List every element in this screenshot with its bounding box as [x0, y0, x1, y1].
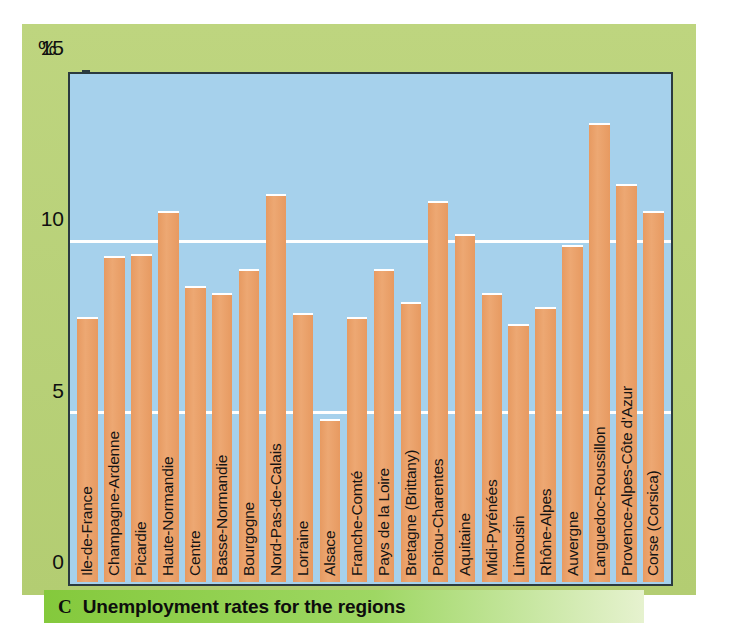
bar[interactable]: Limousin: [508, 324, 528, 582]
bar-category-label: Alsace: [321, 531, 339, 576]
bar[interactable]: Franche-Comté: [347, 317, 367, 582]
bar-category-label: Basse-Normandie: [213, 455, 231, 576]
bar-category-label: Auvergne: [564, 511, 582, 576]
bar[interactable]: Centre: [185, 286, 205, 582]
y-tick-label-5: 5: [20, 378, 64, 402]
bar-slot: Bretagne (Brittany): [397, 76, 424, 582]
bar[interactable]: Rhône-Alpes: [535, 307, 555, 582]
plot-area: Ile-de-FranceChampagne-ArdennePicardieHa…: [68, 72, 673, 586]
y-tick-label-0: 0: [20, 550, 64, 574]
bar-category-label: Franche-Comté: [348, 471, 366, 576]
bar[interactable]: Poitou-Charentes: [428, 201, 448, 582]
bar-slot: Aquitaine: [451, 76, 478, 582]
bar[interactable]: Lorraine: [293, 313, 313, 582]
bar[interactable]: Aquitaine: [455, 234, 475, 583]
bar-category-label: Midi-Pyrénées: [483, 480, 501, 576]
bar-slot: Ile-de-France: [74, 76, 101, 582]
bar-category-label: Rhône-Alpes: [537, 489, 555, 576]
figure-caption: C Unemployment rates for the regions: [44, 590, 644, 623]
bar-slot: Picardie: [128, 76, 155, 582]
figure-container: % 051015 Ile-de-FranceChampagne-ArdenneP…: [0, 0, 730, 625]
bar-category-label: Bourgogne: [240, 502, 258, 576]
bar-slot: Nord-Pas-de-Calais: [263, 76, 290, 582]
bar-category-label: Provence-Alpes-Côte d'Azur: [618, 386, 636, 576]
bar[interactable]: Picardie: [131, 254, 151, 582]
bar-slot: Alsace: [317, 76, 344, 582]
bar-slot: Haute-Normandie: [155, 76, 182, 582]
bar-slot: Franche-Comté: [344, 76, 371, 582]
bar-category-label: Centre: [186, 531, 204, 576]
bar-slot: Provence-Alpes-Côte d'Azur: [613, 76, 640, 582]
caption-text: Unemployment rates for the regions: [83, 596, 406, 618]
bar-slot: Basse-Normandie: [209, 76, 236, 582]
bar[interactable]: Bretagne (Brittany): [401, 302, 421, 583]
bar-category-label: Poitou-Charentes: [429, 459, 447, 576]
bar[interactable]: Haute-Normandie: [158, 211, 178, 582]
bar-slot: Auvergne: [559, 76, 586, 582]
bar[interactable]: Provence-Alpes-Côte d'Azur: [616, 184, 636, 582]
bar-category-label: Haute-Normandie: [159, 457, 177, 576]
caption-letter: C: [58, 596, 72, 618]
bar[interactable]: Corse (Corsica): [643, 211, 663, 582]
bar[interactable]: Auvergne: [562, 245, 582, 582]
y-tick-label-10: 10: [20, 207, 64, 231]
bar-slot: Poitou-Charentes: [424, 76, 451, 582]
bar-slot: Languedoc-Roussillon: [586, 76, 613, 582]
bar-category-label: Champagne-Ardenne: [105, 431, 123, 576]
bar-category-label: Bretagne (Brittany): [402, 450, 420, 576]
bar-slot: Centre: [182, 76, 209, 582]
bar[interactable]: Pays de la Loire: [374, 269, 394, 582]
bar[interactable]: Midi-Pyrénées: [482, 293, 502, 582]
bar[interactable]: Alsace: [320, 419, 340, 582]
bar-slot: Champagne-Ardenne: [101, 76, 128, 582]
bar[interactable]: Champagne-Ardenne: [104, 256, 124, 582]
bar-category-label: Limousin: [510, 516, 528, 576]
bar-slot: Corse (Corsica): [640, 76, 667, 582]
bar-slot: Lorraine: [290, 76, 317, 582]
bars-layer: Ile-de-FranceChampagne-ArdennePicardieHa…: [72, 76, 669, 582]
bar-category-label: Ile-de-France: [78, 486, 96, 576]
bar-category-label: Languedoc-Roussillon: [591, 427, 609, 576]
y-tick-label-15: 15: [20, 36, 64, 60]
bar-slot: Rhône-Alpes: [532, 76, 559, 582]
bar-category-label: Picardie: [132, 522, 150, 576]
bar-category-label: Aquitaine: [456, 513, 474, 576]
bar-slot: Bourgogne: [236, 76, 263, 582]
bar-category-label: Lorraine: [294, 521, 312, 576]
y-axis-ticks: 051015: [18, 72, 64, 586]
bar-slot: Midi-Pyrénées: [478, 76, 505, 582]
bar-slot: Pays de la Loire: [370, 76, 397, 582]
bar-category-label: Pays de la Loire: [375, 468, 393, 576]
bar-category-label: Corse (Corsica): [644, 470, 662, 576]
bar[interactable]: Ile-de-France: [77, 317, 97, 582]
bar[interactable]: Bourgogne: [239, 269, 259, 582]
bar[interactable]: Basse-Normandie: [212, 293, 232, 582]
bar[interactable]: Nord-Pas-de-Calais: [266, 194, 286, 582]
bar[interactable]: Languedoc-Roussillon: [589, 123, 609, 582]
bar-slot: Limousin: [505, 76, 532, 582]
bar-category-label: Nord-Pas-de-Calais: [267, 443, 285, 576]
